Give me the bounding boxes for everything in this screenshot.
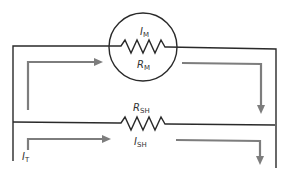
meter-resistance-label: RM xyxy=(137,59,150,72)
shunt-current-in-arrowhead xyxy=(102,135,111,143)
meter-current-out-arrowhead xyxy=(257,105,265,114)
shunt-resistance-label: RSH xyxy=(133,102,150,115)
shunt-resistor xyxy=(118,117,168,130)
shunt-current-label: ISH xyxy=(134,136,147,149)
shunt-current-in-arrow xyxy=(28,139,104,150)
meter-current-in-arrow xyxy=(28,62,96,110)
middle-wire-left xyxy=(13,122,118,123)
total-current-label: IT xyxy=(22,151,30,164)
shunt-current-out-arrowhead xyxy=(256,156,264,165)
circuit-diagram: IM RM RSH ISH IT xyxy=(0,0,283,176)
meter-resistor xyxy=(118,40,168,53)
meter-current-out-arrow xyxy=(182,63,261,106)
middle-wire-right xyxy=(168,124,275,125)
meter-current-label: IM xyxy=(140,26,149,39)
meter-current-in-arrowhead xyxy=(94,58,103,66)
shunt-current-out-arrow xyxy=(176,140,260,157)
